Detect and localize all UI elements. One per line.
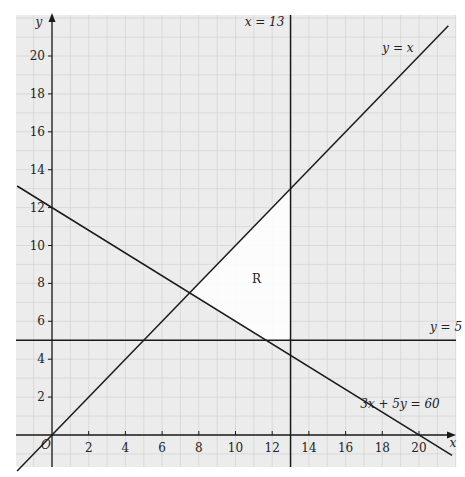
- x-tick-label: 8: [195, 441, 203, 455]
- equation-label: x = 13: [245, 15, 285, 29]
- equation-label: y = x: [381, 41, 413, 55]
- x-tick-label: 20: [411, 441, 426, 455]
- x-tick-label: 10: [228, 441, 243, 455]
- y-tick-label: 4: [37, 352, 45, 366]
- equation-label: 3x + 5y = 60: [360, 397, 440, 411]
- x-tick-label: 16: [338, 441, 353, 455]
- y-tick-label: 6: [37, 314, 45, 328]
- y-tick-label: 8: [37, 276, 45, 290]
- region-label-r: R: [252, 272, 262, 286]
- y-tick-label: 18: [30, 87, 45, 101]
- y-tick-label: 16: [30, 125, 45, 139]
- linear-programming-graph: 24681012141618202468101214161820xyO x = …: [0, 0, 465, 477]
- x-tick-label: 14: [301, 441, 317, 455]
- x-tick-label: 6: [158, 441, 166, 455]
- x-tick-label: 18: [375, 441, 390, 455]
- y-tick-label: 14: [30, 163, 46, 177]
- x-tick-label: 2: [85, 441, 93, 455]
- x-tick-label: 12: [265, 441, 280, 455]
- y-tick-label: 2: [37, 390, 45, 404]
- y-tick-label: 10: [30, 239, 45, 253]
- y-tick-label: 20: [30, 49, 45, 63]
- y-axis-label: y: [35, 15, 43, 29]
- x-axis-label: x: [450, 436, 457, 450]
- equation-label: y = 5: [429, 320, 462, 334]
- x-tick-label: 4: [122, 441, 130, 455]
